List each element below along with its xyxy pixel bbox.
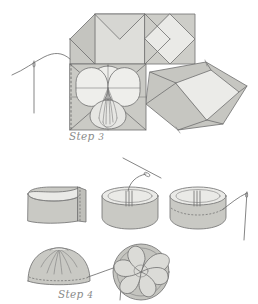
ring-seam-stitched — [102, 158, 161, 229]
figure-page: .ol { stroke:#6f6f6f; stroke-width:0.8; … — [0, 0, 258, 304]
caption-step-4-number: 4 — [87, 290, 93, 300]
caption-step-3: Step 3 — [69, 130, 104, 142]
step3-diagram — [12, 14, 247, 133]
step4-diagram — [28, 158, 248, 300]
craft-illustration: .ol { stroke:#6f6f6f; stroke-width:0.8; … — [0, 0, 258, 304]
finished-rosette — [113, 244, 169, 300]
petal-bottom — [90, 100, 126, 129]
lower-right-rotated-square — [146, 60, 247, 133]
fabric-strip-overlap — [28, 187, 86, 223]
upper-right-rotated-square — [145, 14, 195, 64]
upper-left-folded-square — [70, 14, 145, 64]
caption-step-3-word: Step — [69, 130, 95, 142]
caption-step-4: Step 4 — [58, 288, 93, 300]
needle-and-thread-stage2 — [123, 158, 161, 191]
caption-step-4-word: Step — [58, 288, 84, 300]
needle-and-thread — [12, 53, 70, 113]
caption-step-3-number: 3 — [98, 132, 104, 142]
ring-running-stitch — [170, 187, 248, 240]
